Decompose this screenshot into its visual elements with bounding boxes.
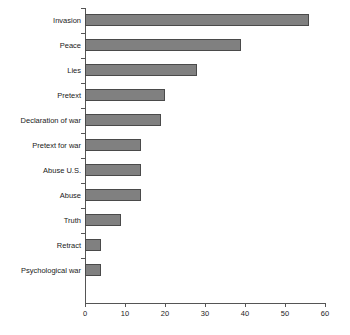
value-tick-label: 0	[75, 309, 95, 318]
category-label: Declaration of war	[3, 116, 81, 125]
bar	[85, 189, 141, 201]
category-label: Psychological war	[3, 266, 81, 275]
category-tick	[81, 183, 85, 184]
bar-row	[85, 158, 325, 183]
value-tick-label: 10	[115, 309, 135, 318]
bar-row	[85, 108, 325, 133]
bar-row	[85, 58, 325, 83]
category-label: Invasion	[3, 16, 81, 25]
bar	[85, 164, 141, 176]
bar	[85, 139, 141, 151]
category-tick	[81, 33, 85, 34]
bar	[85, 64, 197, 76]
value-tick-label: 50	[275, 309, 295, 318]
category-tick	[81, 158, 85, 159]
value-tick-label: 40	[235, 309, 255, 318]
category-label: Truth	[3, 216, 81, 225]
plot-area	[85, 8, 325, 303]
bar-row	[85, 258, 325, 283]
value-tick-label: 30	[195, 309, 215, 318]
category-label: Retract	[3, 241, 81, 250]
category-tick	[81, 8, 85, 9]
value-tick	[325, 303, 326, 307]
category-label: Abuse	[3, 191, 81, 200]
value-tick-label: 20	[155, 309, 175, 318]
bar-row	[85, 83, 325, 108]
category-tick	[81, 58, 85, 59]
category-tick	[81, 108, 85, 109]
bar-row	[85, 133, 325, 158]
value-tick	[165, 303, 166, 307]
value-tick	[285, 303, 286, 307]
value-tick	[125, 303, 126, 307]
bar	[85, 264, 101, 276]
category-tick	[81, 258, 85, 259]
value-tick	[85, 303, 86, 307]
bar	[85, 89, 165, 101]
category-label: Abuse U.S.	[3, 166, 81, 175]
category-tick	[81, 133, 85, 134]
category-axis-labels: InvasionPeaceLiesPretextDeclaration of w…	[0, 8, 81, 303]
bar-row	[85, 8, 325, 33]
bar	[85, 239, 101, 251]
bar-row	[85, 33, 325, 58]
bar-row	[85, 183, 325, 208]
category-tick	[81, 208, 85, 209]
category-label: Lies	[3, 66, 81, 75]
value-tick-label: 60	[315, 309, 335, 318]
category-tick	[81, 83, 85, 84]
category-tick	[81, 233, 85, 234]
bar	[85, 214, 121, 226]
bar	[85, 39, 241, 51]
category-label: Pretext for war	[3, 141, 81, 150]
bar-row	[85, 208, 325, 233]
bar	[85, 14, 309, 26]
category-label: Peace	[3, 41, 81, 50]
bar	[85, 114, 161, 126]
category-label: Pretext	[3, 91, 81, 100]
bar-row	[85, 233, 325, 258]
value-tick	[245, 303, 246, 307]
bar-chart: InvasionPeaceLiesPretextDeclaration of w…	[0, 0, 350, 335]
value-tick	[205, 303, 206, 307]
